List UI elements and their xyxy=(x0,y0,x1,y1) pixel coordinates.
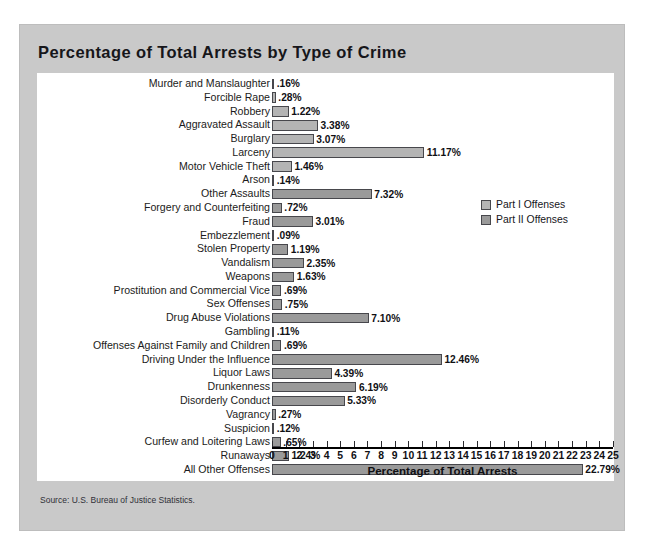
bar xyxy=(272,134,314,145)
x-axis-tick-label: 21 xyxy=(553,450,565,461)
legend-label: Part I Offenses xyxy=(496,199,565,210)
bar-row: Drug Abuse Violations7.10% xyxy=(37,311,614,325)
x-axis-tick-label: 18 xyxy=(512,450,524,461)
x-axis-tick xyxy=(586,441,587,447)
bar xyxy=(272,409,276,420)
category-label: Disorderly Conduct xyxy=(180,394,270,408)
bar-value-label: 6.19% xyxy=(359,381,388,395)
chart-plot-panel: Murder and Manslaughter.16%Forcible Rape… xyxy=(37,73,614,481)
category-label: Weapons xyxy=(225,270,270,284)
bar xyxy=(272,216,313,227)
bar xyxy=(272,354,442,365)
category-label: Stolen Property xyxy=(197,242,270,256)
bar-value-label: 5.33% xyxy=(347,394,376,408)
x-axis-tick xyxy=(299,441,300,447)
bar xyxy=(272,368,332,379)
x-axis-tick xyxy=(572,441,573,447)
bar-row: Robbery1.22% xyxy=(37,105,614,119)
bar xyxy=(272,120,318,131)
bar-value-label: .75% xyxy=(285,298,308,312)
bar-row: Offenses Against Family and Children.69% xyxy=(37,339,614,353)
category-label: Liquor Laws xyxy=(213,366,270,380)
bar xyxy=(272,79,274,90)
x-axis-tick xyxy=(340,441,341,447)
x-axis-tick xyxy=(354,441,355,447)
bar-row: Vagrancy.27% xyxy=(37,408,614,422)
x-axis-tick-label: 22 xyxy=(566,450,578,461)
x-axis-tick-label: 8 xyxy=(378,450,384,461)
bar xyxy=(272,327,274,338)
x-axis-line xyxy=(272,447,613,449)
bar-value-label: 4.39% xyxy=(334,367,363,381)
x-axis-tick-label: 9 xyxy=(392,450,398,461)
bar-row: Disorderly Conduct5.33% xyxy=(37,394,614,408)
bar xyxy=(272,272,294,283)
legend-label: Part II Offenses xyxy=(496,214,568,225)
bar-value-label: 2.35% xyxy=(307,257,336,271)
bar-row: Suspicion.12% xyxy=(37,422,614,436)
x-axis-tick-label: 4 xyxy=(324,450,330,461)
x-axis-tick-label: 19 xyxy=(525,450,537,461)
x-axis-tick-label: 11 xyxy=(417,450,428,461)
bar-row: Sex Offenses.75% xyxy=(37,297,614,311)
bar-row: Larceny11.17% xyxy=(37,146,614,160)
bar-value-label: 7.10% xyxy=(371,312,400,326)
category-label: Motor Vehicle Theft xyxy=(179,160,270,174)
x-axis-tick-label: 0 xyxy=(269,450,275,461)
category-label: Burglary xyxy=(231,132,270,146)
bar xyxy=(272,189,372,200)
bar-row: Liquor Laws4.39% xyxy=(37,366,614,380)
category-label: Aggravated Assault xyxy=(179,118,270,132)
bar xyxy=(272,258,304,269)
x-axis-tick xyxy=(422,441,423,447)
x-axis-tick-label: 15 xyxy=(471,450,483,461)
bar-row: Drunkenness6.19% xyxy=(37,380,614,394)
bar-row: Driving Under the Influence12.46% xyxy=(37,353,614,367)
bar xyxy=(272,285,281,296)
category-label: Runaways xyxy=(221,449,270,463)
x-axis-tick xyxy=(272,441,273,447)
category-label: Other Assaults xyxy=(201,187,270,201)
category-label: Drug Abuse Violations xyxy=(166,311,270,325)
x-axis-tick xyxy=(286,441,287,447)
category-label: Drunkenness xyxy=(208,380,270,394)
bar-value-label: 11.17% xyxy=(427,146,461,160)
x-axis-tick xyxy=(367,441,368,447)
bar xyxy=(272,161,292,172)
x-axis-tick-label: 12 xyxy=(430,450,442,461)
category-label: Arson xyxy=(242,173,270,187)
bar-row: Burglary3.07% xyxy=(37,132,614,146)
bar-value-label: .69% xyxy=(284,339,307,353)
bar-value-label: .14% xyxy=(277,174,300,188)
bar-value-label: .69% xyxy=(284,284,307,298)
bar-value-label: 12.46% xyxy=(444,353,479,367)
bar xyxy=(272,437,281,448)
category-label: Fraud xyxy=(242,215,270,229)
x-axis-tick-label: 3 xyxy=(310,450,316,461)
x-axis-tick xyxy=(477,441,478,447)
x-axis-tick-label: 24 xyxy=(594,450,606,461)
bar xyxy=(272,396,345,407)
x-axis-tick-label: 25 xyxy=(607,450,619,461)
bar-value-label: .27% xyxy=(278,408,301,422)
x-axis-tick xyxy=(531,441,532,447)
x-axis-tick-label: 17 xyxy=(498,450,510,461)
x-axis-tick-label: 1 xyxy=(283,450,289,461)
x-axis-tick-label: 16 xyxy=(484,450,496,461)
x-axis-tick-label: 20 xyxy=(539,450,551,461)
x-axis-tick-label: 2 xyxy=(296,450,302,461)
x-axis-tick xyxy=(395,441,396,447)
x-axis-tick xyxy=(599,441,600,447)
bar-value-label: .16% xyxy=(277,77,300,91)
bar-value-label: 3.01% xyxy=(316,215,345,229)
bar xyxy=(272,106,289,117)
bar-row: Arson.14% xyxy=(37,173,614,187)
category-label: Embezzlement xyxy=(200,229,270,243)
x-axis-tick xyxy=(313,441,314,447)
category-label: Driving Under the Influence xyxy=(142,353,270,367)
bar xyxy=(272,175,274,186)
category-label: Curfew and Loitering Laws xyxy=(145,435,270,449)
bar-value-label: 3.38% xyxy=(321,119,350,133)
bar-chart: Murder and Manslaughter.16%Forcible Rape… xyxy=(37,73,614,481)
bar-row: Gambling.11% xyxy=(37,325,614,339)
